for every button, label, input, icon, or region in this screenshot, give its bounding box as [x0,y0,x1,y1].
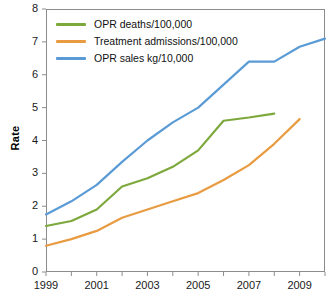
series-line [46,119,300,246]
legend-color-swatch [56,40,86,43]
legend-label: Treatment admissions/100,000 [94,36,238,47]
chart-legend: OPR deaths/100,000Treatment admissions/1… [56,17,256,68]
legend-color-swatch [56,57,86,60]
line-chart: Rate 012345678 199920012003200520072009 … [0,0,332,297]
series-lines [46,39,325,246]
legend-color-swatch [56,23,86,26]
legend-item: OPR sales kg/10,000 [56,51,256,66]
legend-label: OPR sales kg/10,000 [94,53,193,64]
legend-item: OPR deaths/100,000 [56,17,256,32]
legend-label: OPR deaths/100,000 [94,19,192,30]
legend-item: Treatment admissions/100,000 [56,34,256,49]
